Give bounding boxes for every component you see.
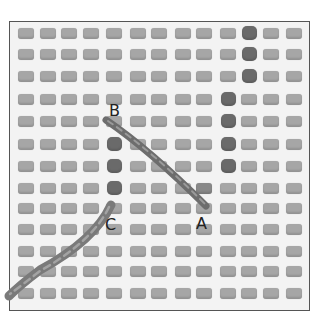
yarn-strands — [0, 0, 330, 313]
label-c: C — [105, 217, 116, 233]
yarn-b-to-a — [106, 120, 206, 206]
yarn-c-to-corner — [9, 205, 111, 296]
label-b: B — [109, 103, 120, 119]
label-a: A — [196, 216, 207, 232]
